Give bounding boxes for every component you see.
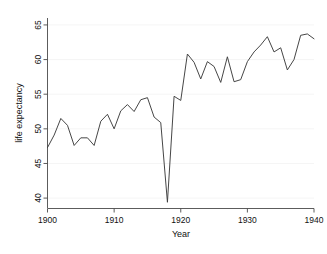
chart-figure: 404550556065 19001910192019301940 Year l… [0,0,327,254]
x-tick-label: 1940 [305,215,324,225]
y-axis-title: life expectancy [14,83,24,143]
x-tick-label: 1900 [38,215,57,225]
x-tick-label: 1930 [238,215,257,225]
y-tick-label: 55 [33,89,43,99]
x-tick-label: 1920 [171,215,190,225]
x-axis-title: Year [172,229,190,239]
y-tick-label: 65 [33,20,43,30]
y-tick-label: 45 [33,158,43,168]
y-tick-label: 60 [33,55,43,65]
y-tick-label: 50 [33,124,43,134]
line-chart: 404550556065 19001910192019301940 Year l… [0,0,327,254]
y-tick-label: 40 [33,193,43,203]
x-tick-label: 1910 [105,215,124,225]
